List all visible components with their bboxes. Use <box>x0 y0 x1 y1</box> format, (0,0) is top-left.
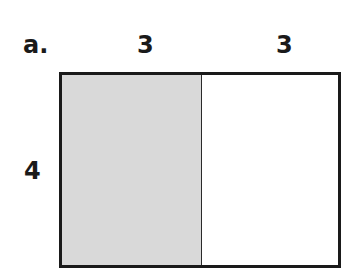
shaded-region <box>62 75 202 265</box>
area-rectangle <box>59 72 341 268</box>
problem-label: a. <box>23 33 48 57</box>
side-dimension: 4 <box>24 159 41 183</box>
top-dimension-right: 3 <box>276 33 293 57</box>
top-dimension-left: 3 <box>137 33 154 57</box>
